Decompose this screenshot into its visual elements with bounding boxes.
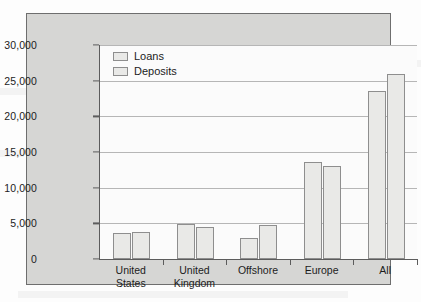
y-axis-tick-label: 20,000 — [0, 110, 37, 122]
y-axis-tick-mark — [93, 223, 99, 224]
y-axis-tick-label: 10,000 — [0, 182, 37, 194]
legend-label: Loans — [134, 50, 164, 62]
legend-item-loans: Loans — [113, 50, 177, 62]
y-axis-tick-mark — [93, 80, 99, 81]
y-axis-tick-label: 5,000 — [0, 217, 37, 229]
bar-loans — [113, 233, 131, 259]
legend-label: Deposits — [134, 65, 177, 77]
y-axis-tick-label: 25,000 — [0, 75, 37, 87]
bar-group — [354, 45, 418, 259]
legend-item-deposits: Deposits — [113, 65, 177, 77]
y-axis-tick-label: 15,000 — [0, 146, 37, 158]
bar-group — [291, 45, 355, 259]
bar-deposits — [259, 225, 277, 259]
bar-deposits — [196, 227, 214, 259]
x-axis-category-label: Offshore — [226, 264, 290, 277]
bar-deposits — [387, 74, 405, 259]
bar-group — [100, 45, 164, 259]
bar-group — [164, 45, 228, 259]
scanned-page: 05,00010,00015,00020,00025,00030,000 Uni… — [0, 0, 421, 302]
x-axis-category-label: United States — [99, 264, 163, 289]
bar-loans — [304, 162, 322, 259]
y-axis-tick-mark — [93, 151, 99, 152]
bar-loans — [177, 224, 195, 259]
bar-deposits — [323, 166, 341, 259]
plot-area — [99, 45, 417, 259]
chart-figure-panel: 05,00010,00015,00020,00025,00030,000 Uni… — [26, 13, 391, 285]
y-axis-tick-mark — [93, 116, 99, 117]
bar-loans — [240, 238, 258, 259]
bar-loans — [368, 91, 386, 259]
bar-group — [227, 45, 291, 259]
scan-artifact — [18, 291, 348, 298]
legend-swatch-icon — [113, 67, 128, 76]
scan-artifact — [0, 88, 26, 95]
x-axis-separator — [417, 259, 418, 265]
chart-legend: LoansDeposits — [113, 50, 177, 77]
x-axis-baseline — [99, 259, 417, 260]
y-axis-tick-mark — [93, 44, 99, 45]
y-axis-tick-label: 0 — [0, 253, 37, 265]
x-axis-category-label: All — [353, 264, 417, 277]
x-axis-category-label: United Kingdom — [163, 264, 227, 289]
y-axis-tick-label: 30,000 — [0, 39, 37, 51]
bar-deposits — [132, 232, 150, 259]
x-axis-category-label: Europe — [290, 264, 354, 277]
y-axis-tick-mark — [93, 187, 99, 188]
legend-swatch-icon — [113, 52, 128, 61]
